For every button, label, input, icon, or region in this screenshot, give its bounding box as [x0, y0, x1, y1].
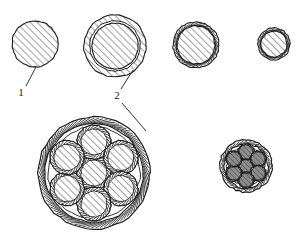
- cable-strand: [50, 171, 85, 205]
- cable-strand: [104, 140, 139, 174]
- bottom-row-group: [38, 116, 273, 229]
- bare-conductor: [10, 19, 60, 69]
- braid-tick: [67, 221, 84, 222]
- cable-strand: [50, 140, 84, 175]
- callout-leader-line: [26, 67, 36, 86]
- braid-tick: [252, 144, 259, 145]
- figure-canvas: 12: [0, 0, 304, 235]
- seven-strand-cable-small: [219, 140, 272, 193]
- braid-tick: [55, 169, 60, 170]
- seven-strand-cable-large: [38, 116, 151, 229]
- callout-label: 1: [18, 86, 24, 98]
- cable-cross-section-diagram: 12: [0, 0, 304, 235]
- conductor-core-hatch: [10, 19, 60, 69]
- braided-conductor-small: [258, 28, 291, 61]
- braided-conductor-medium: [173, 22, 219, 68]
- braid-tick: [82, 215, 87, 216]
- callout-1: 1: [18, 67, 36, 98]
- top-row-group: [10, 14, 290, 79]
- insulated-conductor: [83, 14, 148, 79]
- callout-label: 2: [114, 89, 120, 101]
